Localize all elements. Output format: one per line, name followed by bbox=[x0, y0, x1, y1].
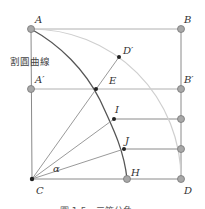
segment-AC bbox=[31, 29, 32, 179]
ray-C-D-prime bbox=[32, 57, 119, 179]
label-C: C bbox=[36, 185, 44, 196]
node-A bbox=[28, 26, 35, 33]
label-I: I bbox=[114, 104, 120, 115]
label-J: J bbox=[123, 135, 130, 146]
label-A-prime: A′ bbox=[34, 74, 45, 85]
point-D-prime bbox=[117, 55, 121, 59]
point-E bbox=[94, 87, 98, 91]
figure-caption: 圖 1-5 三等分角 bbox=[60, 205, 132, 209]
label-H: H bbox=[130, 167, 140, 178]
label-B: B bbox=[183, 14, 191, 25]
label-A: A bbox=[34, 14, 42, 25]
node-H bbox=[124, 176, 131, 183]
node-A-prime bbox=[28, 86, 35, 93]
quadratrix-trisection-diagram: A B A′ B′ C D D′ E I J H α 割圓曲線 圖 1-5 三等… bbox=[0, 0, 205, 209]
label-quadratrix: 割圓曲線 bbox=[10, 56, 50, 67]
point-C bbox=[30, 177, 34, 181]
quarter-circle-arc bbox=[31, 29, 181, 179]
node-B-prime bbox=[178, 86, 185, 93]
node-J-right bbox=[178, 146, 185, 153]
point-I bbox=[112, 117, 116, 121]
label-D-prime: D′ bbox=[122, 45, 134, 56]
point-J bbox=[122, 147, 126, 151]
label-E: E bbox=[108, 75, 117, 86]
quadratrix-curve bbox=[31, 29, 127, 179]
label-alpha: α bbox=[53, 163, 60, 174]
node-B bbox=[178, 26, 185, 33]
node-I-right bbox=[178, 116, 185, 123]
ray-C-J bbox=[32, 149, 124, 179]
label-B-prime: B′ bbox=[183, 74, 194, 85]
label-D: D bbox=[183, 185, 192, 196]
node-D bbox=[178, 176, 185, 183]
ray-C-I bbox=[32, 119, 114, 179]
